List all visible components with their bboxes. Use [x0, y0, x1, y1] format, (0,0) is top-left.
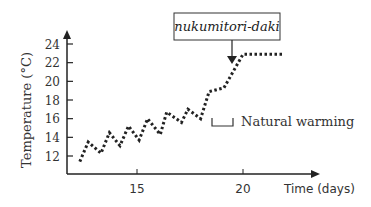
y-tick-label: 14 [45, 131, 61, 145]
y-tick-label: 24 [45, 38, 61, 52]
temperature-chart: 12141618202224 1520 Temperature (°C) Tim… [0, 0, 371, 207]
y-axis-title: Temperature (°C) [19, 52, 34, 168]
y-tick-label: 20 [45, 75, 60, 89]
y-tick-label: 16 [45, 112, 60, 126]
callout-arrow-icon [227, 56, 237, 64]
y-ticks: 12141618202224 [45, 38, 73, 164]
x-ticks: 1520 [129, 169, 250, 196]
temperature-series-line [80, 54, 283, 161]
callout-label: nukumitori-daki [174, 19, 279, 34]
y-axis-arrow-icon [63, 30, 71, 39]
x-tick-label: 20 [235, 182, 250, 196]
y-tick-label: 22 [45, 56, 60, 70]
legend-label: Natural warming [241, 114, 354, 129]
x-tick-label: 15 [129, 182, 144, 196]
y-tick-label: 12 [45, 150, 60, 164]
x-axis-title: Time (days) [283, 182, 355, 196]
y-tick-label: 18 [45, 94, 60, 108]
legend-bracket-icon [212, 118, 233, 126]
x-axis-arrow-icon [311, 170, 320, 178]
